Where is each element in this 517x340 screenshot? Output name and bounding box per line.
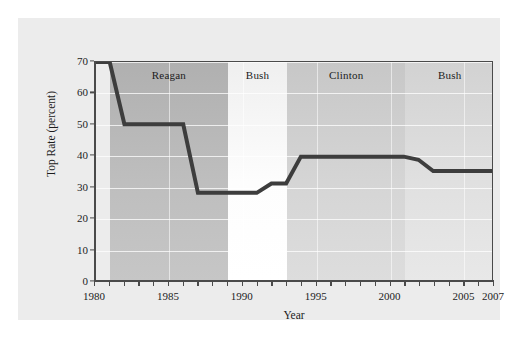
x-tick-mark-1991 xyxy=(257,281,258,286)
band-label-bush-41: Bush xyxy=(228,69,287,81)
x-tick-mark-1995 xyxy=(316,281,317,286)
y-tick-mark-40 xyxy=(90,155,94,156)
band-label-clinton: Clinton xyxy=(287,69,405,81)
x-tick-mark-1990 xyxy=(242,281,243,286)
y-tick-mark-30 xyxy=(90,186,94,187)
y-tick-mark-70 xyxy=(90,60,94,61)
x-tick-label-1980: 1980 xyxy=(83,290,105,302)
band-label-reagan: Reagan xyxy=(110,69,228,81)
y-tick-mark-10 xyxy=(90,249,94,250)
y-tick-label-70: 70 xyxy=(62,55,88,67)
x-tick-label-2000: 2000 xyxy=(379,290,401,302)
figure-root: ReaganBushClintonBush 010203040506070 19… xyxy=(0,0,517,340)
band-label-bush-43: Bush xyxy=(405,69,493,81)
y-axis-ticks: 010203040506070 xyxy=(58,61,88,281)
plot-area: ReaganBushClintonBush xyxy=(94,61,493,281)
y-axis-title: Top Rate (percent) xyxy=(45,54,57,214)
x-tick-label-2007: 2007 xyxy=(482,290,504,302)
x-tick-mark-2006 xyxy=(478,281,479,286)
y-tick-label-50: 50 xyxy=(62,118,88,130)
x-tick-mark-2005 xyxy=(463,281,464,286)
x-tick-mark-1997 xyxy=(345,281,346,286)
x-tick-mark-1993 xyxy=(286,281,287,286)
x-tick-label-1990: 1990 xyxy=(231,290,253,302)
x-tick-label-1995: 1995 xyxy=(305,290,327,302)
series-line xyxy=(95,62,492,280)
x-tick-mark-1992 xyxy=(271,281,272,286)
y-tick-mark-60 xyxy=(90,92,94,93)
y-tick-mark-20 xyxy=(90,218,94,219)
x-tick-mark-1994 xyxy=(301,281,302,286)
y-tick-mark-50 xyxy=(90,123,94,124)
x-tick-mark-1987 xyxy=(197,281,198,286)
x-tick-mark-1989 xyxy=(227,281,228,286)
y-tick-label-60: 60 xyxy=(62,86,88,98)
x-tick-mark-2000 xyxy=(390,281,391,286)
x-tick-mark-1981 xyxy=(109,281,110,286)
x-tick-mark-1985 xyxy=(168,281,169,286)
x-tick-mark-1982 xyxy=(124,281,125,286)
x-tick-mark-1996 xyxy=(330,281,331,286)
x-tick-mark-1984 xyxy=(153,281,154,286)
y-tick-label-20: 20 xyxy=(62,212,88,224)
x-tick-mark-2007 xyxy=(493,281,494,286)
x-tick-mark-1998 xyxy=(360,281,361,286)
y-tick-label-40: 40 xyxy=(62,149,88,161)
chart-panel: ReaganBushClintonBush 010203040506070 19… xyxy=(18,18,500,320)
x-tick-mark-1980 xyxy=(94,281,95,286)
x-tick-mark-2004 xyxy=(449,281,450,286)
x-tick-mark-1986 xyxy=(183,281,184,286)
x-tick-mark-2003 xyxy=(434,281,435,286)
y-tick-mark-0 xyxy=(90,280,94,281)
y-tick-label-0: 0 xyxy=(62,275,88,287)
y-axis-line xyxy=(94,61,96,282)
x-tick-mark-2002 xyxy=(419,281,420,286)
x-tick-mark-1999 xyxy=(375,281,376,286)
x-tick-label-2005: 2005 xyxy=(452,290,474,302)
y-tick-label-30: 30 xyxy=(62,181,88,193)
x-tick-mark-1983 xyxy=(138,281,139,286)
x-axis-title: Year xyxy=(94,309,494,321)
y-tick-label-10: 10 xyxy=(62,244,88,256)
x-tick-mark-2001 xyxy=(404,281,405,286)
x-tick-mark-1988 xyxy=(212,281,213,286)
x-tick-label-1985: 1985 xyxy=(157,290,179,302)
